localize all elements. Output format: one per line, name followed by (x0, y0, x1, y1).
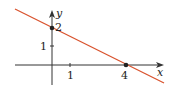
x-intercept-label: 4 (121, 69, 128, 82)
point-y-intercept (50, 26, 55, 31)
y-axis-label: y (55, 7, 63, 20)
point-x-intercept (124, 63, 129, 68)
data-line (15, 9, 164, 83)
line-chart: y 2 1 1 4 x (0, 0, 170, 92)
x-tick-label-1: 1 (67, 69, 74, 82)
y-tick-label-1: 1 (40, 40, 47, 53)
x-axis-label: x (157, 66, 164, 79)
y-intercept-label: 2 (55, 21, 62, 34)
